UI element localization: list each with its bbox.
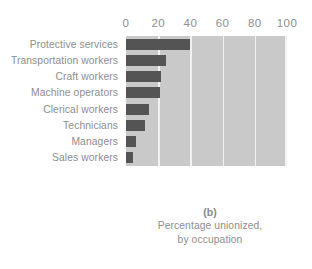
- x-tick-label-0: 0: [123, 16, 130, 30]
- category-label: Machine operators: [31, 87, 118, 98]
- bar: [126, 152, 133, 163]
- x-tick-label-20: 20: [151, 16, 165, 30]
- bar: [126, 87, 160, 98]
- category-label: Transportation workers: [11, 55, 118, 66]
- plot-area: [126, 36, 287, 166]
- x-axis-tick-labels: 020406080100: [126, 16, 287, 34]
- caption-line-2: by occupation: [126, 233, 294, 247]
- category-label: Protective services: [30, 39, 118, 50]
- bar: [126, 104, 149, 115]
- y-axis-category-labels: Protective servicesTransportation worker…: [0, 36, 122, 166]
- gridline-60: [223, 36, 225, 166]
- bar: [126, 71, 161, 82]
- panel-label: (b): [126, 205, 294, 219]
- category-label: Sales workers: [52, 152, 118, 163]
- category-label: Technicians: [63, 120, 118, 131]
- category-label: Craft workers: [55, 71, 118, 82]
- bar: [126, 120, 145, 131]
- bar: [126, 136, 136, 147]
- x-tick-label-100: 100: [277, 16, 297, 30]
- category-label: Managers: [71, 136, 118, 147]
- gridline-100: [285, 36, 287, 166]
- caption-line-1: Percentage unionized,: [126, 219, 294, 233]
- gridline-40: [190, 36, 192, 166]
- chart-figure: 020406080100 Protective servicesTranspor…: [0, 0, 312, 269]
- figure-caption: (b) Percentage unionized, by occupation: [126, 205, 294, 247]
- bar: [126, 39, 190, 50]
- category-label: Clerical workers: [43, 104, 118, 115]
- x-tick-label-40: 40: [184, 16, 198, 30]
- gridline-80: [255, 36, 257, 166]
- x-tick-label-80: 80: [248, 16, 262, 30]
- bar: [126, 55, 166, 66]
- x-tick-label-60: 60: [216, 16, 230, 30]
